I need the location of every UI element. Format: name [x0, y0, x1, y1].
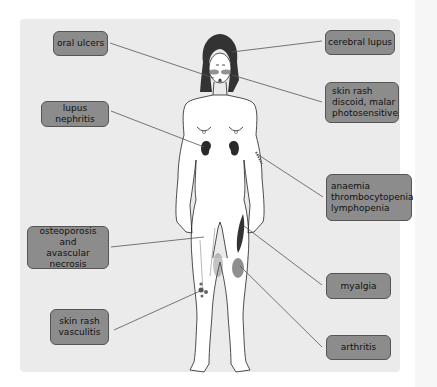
- label-cerebral-lupus: cerebral lupus: [325, 30, 395, 55]
- label-text: lupus nephritis: [42, 103, 108, 125]
- label-skin-rash-discoid: skin rash discoid, malar photosensitive: [325, 82, 399, 123]
- label-arthritis: arthritis: [326, 335, 391, 360]
- label-osteoporosis: osteoporosis and avascular necrosis: [27, 226, 109, 269]
- malar-rash-right: [221, 70, 231, 75]
- label-text: myalgia: [341, 281, 377, 292]
- label-text: skin rash discoid, malar photosensitive: [332, 86, 398, 119]
- label-oral-ulcers: oral ulcers: [53, 31, 108, 56]
- label-lupus-nephritis: lupus nephritis: [41, 101, 109, 127]
- malar-rash-left: [209, 70, 219, 75]
- label-myalgia: myalgia: [326, 273, 391, 299]
- label-text: cerebral lupus: [328, 37, 392, 48]
- label-anaemia: anaemia thrombocytopenia lymphopenia: [326, 174, 412, 221]
- label-text: osteoporosis and avascular necrosis: [28, 226, 108, 270]
- torso: [176, 95, 264, 262]
- label-text: skin rash vasculitis: [59, 316, 101, 338]
- label-text: oral ulcers: [57, 38, 104, 49]
- label-text: anaemia thrombocytopenia lymphopenia: [331, 181, 414, 214]
- label-text: arthritis: [341, 342, 376, 353]
- label-skin-rash-vasculitis: skin rash vasculitis: [50, 309, 109, 345]
